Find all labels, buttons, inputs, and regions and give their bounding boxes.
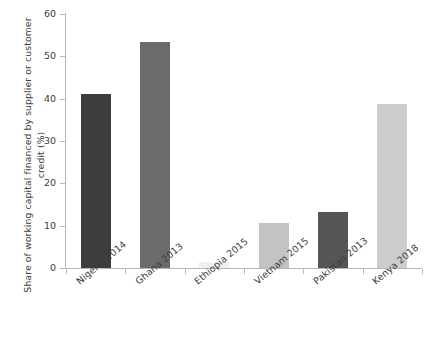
y-tick-label: 50: [26, 50, 56, 61]
bar-kenya-2018: [377, 104, 407, 268]
y-tick-label: 20: [26, 177, 56, 188]
y-tick-mark: [60, 56, 65, 57]
y-tick-mark: [60, 183, 65, 184]
y-tick-label: 40: [26, 93, 56, 104]
plot-area: [66, 14, 422, 268]
y-tick-mark: [60, 226, 65, 227]
x-tick-mark: [303, 269, 304, 274]
x-tick-mark: [422, 269, 423, 274]
x-tick-mark: [185, 269, 186, 274]
y-tick-mark: [60, 14, 65, 15]
bar-chart: Share of working capital financed by sup…: [0, 0, 433, 344]
y-tick-label: 0: [26, 262, 56, 273]
x-tick-mark: [363, 269, 364, 274]
bar-ghana-2013: [140, 42, 170, 268]
y-tick-mark: [60, 141, 65, 142]
x-tick-mark: [244, 269, 245, 274]
y-tick-label: 30: [26, 135, 56, 146]
bar-nigeria-2014: [81, 94, 111, 268]
y-tick-mark: [60, 99, 65, 100]
x-tick-mark: [125, 269, 126, 274]
x-tick-mark: [66, 269, 67, 274]
y-tick-label: 60: [26, 8, 56, 19]
y-tick-label: 10: [26, 220, 56, 231]
